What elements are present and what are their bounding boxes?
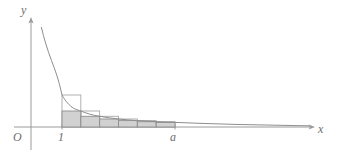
lower-rect-6	[156, 122, 175, 127]
y-axis	[28, 17, 33, 150]
origin-label: O	[13, 131, 22, 143]
function-curve	[41, 27, 310, 126]
x-tick-label-a: a	[170, 131, 176, 143]
lower-rect-2	[81, 116, 100, 127]
lower-rect-4	[119, 121, 138, 127]
riemann-sum-figure: y x O 1 a	[0, 0, 340, 161]
x-tick-label-one: 1	[58, 131, 64, 143]
lower-rect-3	[100, 119, 119, 127]
lower-rect-5	[137, 122, 156, 127]
lower-rect-1	[62, 111, 81, 127]
y-axis-label: y	[21, 4, 26, 16]
x-axis-label: x	[318, 123, 323, 135]
